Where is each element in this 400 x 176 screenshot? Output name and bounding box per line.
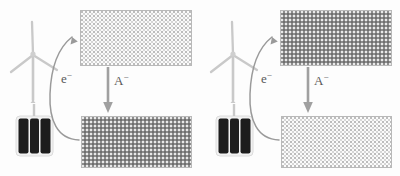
solar-panel-icon (16, 104, 53, 156)
solar-panel-icon (216, 104, 253, 156)
panel-right-electron-label: e− (261, 71, 272, 85)
down-arrow-icon (303, 67, 313, 113)
panel-left-electron-label: e− (61, 71, 72, 85)
panel-right: e− A− (200, 0, 400, 176)
panel-right-vectors (200, 0, 400, 176)
down-arrow-icon (103, 67, 113, 113)
panel-left: e− A− (0, 0, 200, 176)
panel-right-anion-label: A− (314, 73, 328, 87)
panel-left-anion-label: A− (114, 73, 128, 87)
curved-arrow-icon (250, 37, 279, 140)
curved-arrow-icon (50, 37, 79, 140)
diagram-canvas: e− A− (0, 0, 400, 176)
panel-left-vectors (0, 0, 200, 176)
